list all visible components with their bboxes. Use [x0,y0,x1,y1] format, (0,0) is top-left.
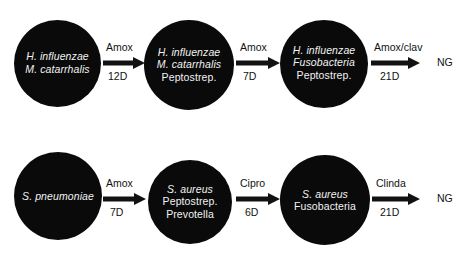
node-line: H. influenzae [14,50,101,63]
node-line: S. aureus [148,183,232,196]
node-line: S. aureus [280,188,370,201]
arrow-drug-label: Cipro [240,177,265,189]
terminal-outcome-label: NG [437,56,453,68]
arrow-duration-label: 21D [380,70,399,82]
node-label-group: S. aureus Peptostrep. Prevotella [148,183,232,221]
arrow-drug-label: Clinda [376,177,406,189]
node-line: H. influenzae [280,44,368,57]
node-line: M. catarrhalis [14,63,101,76]
node-label-group: H. influenzae Fusobacteria Peptostrep. [280,44,368,82]
arrow-duration-label: 6D [245,206,258,218]
bottom-sequence-row: S. pneumoniae Amox 7D S. aureus Peptostr… [0,130,471,261]
bacteria-node: H. influenzae Fusobacteria Peptostrep. [280,20,368,108]
arrow-duration-label: 7D [243,70,256,82]
node-line: M. catarrhalis [144,58,234,71]
node-line: S. pneumoniae [14,190,102,203]
node-line: Peptostrep. [148,195,232,208]
bacteria-node: H. influenzae M. catarrhalis [14,20,101,107]
arrow-drug-label: Amox [240,41,267,53]
bacteria-node: S. pneumoniae [14,152,102,240]
node-label-group: H. influenzae M. catarrhalis Peptostrep. [144,46,234,84]
node-line: Prevotella [148,208,232,221]
arrow-duration-label: 12D [108,70,127,82]
terminal-outcome-label: NG [437,192,453,204]
top-sequence-row: H. influenzae M. catarrhalis Amox 12D H.… [0,0,471,131]
bacteria-node: S. aureus Peptostrep. Prevotella [148,160,232,244]
node-label-group: S. pneumoniae [14,190,102,203]
arrow-drug-label: Amox/clav [374,41,422,53]
bacteria-node: H. influenzae M. catarrhalis Peptostrep. [144,20,234,110]
arrow-drug-label: Amox [106,177,133,189]
arrow-drug-label: Amox [106,41,133,53]
node-line: Fusobacteria [280,200,370,213]
arrow-duration-label: 7D [110,206,123,218]
node-line: Fusobacteria [280,56,368,69]
node-label-group: H. influenzae M. catarrhalis [14,50,101,75]
node-line: Peptostrep. [280,69,368,82]
node-line: Peptostrep. [144,71,234,84]
arrow-duration-label: 21D [380,206,399,218]
diagram-canvas: H. influenzae M. catarrhalis Amox 12D H.… [0,0,471,261]
bacteria-node: S. aureus Fusobacteria [280,155,370,245]
node-line: H. influenzae [144,46,234,59]
node-label-group: S. aureus Fusobacteria [280,188,370,213]
